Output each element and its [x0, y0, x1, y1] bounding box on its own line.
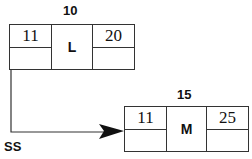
node-l-right-empty — [93, 48, 134, 70]
node-l-left-empty — [10, 48, 51, 70]
node-l-center: L — [51, 25, 93, 69]
node-l-left-value: 11 — [10, 25, 51, 48]
edge-label: SS — [4, 140, 21, 153]
node-l-left-cell: 11 — [10, 25, 51, 69]
node-l-header: 10 — [63, 4, 77, 17]
node-m: 11 M 25 — [124, 106, 249, 152]
node-l: 11 L 20 — [9, 24, 135, 70]
node-m-left-value: 11 — [125, 107, 166, 130]
node-l-right-value: 20 — [93, 25, 134, 48]
node-m-left-empty — [125, 130, 166, 152]
node-m-center: M — [166, 107, 207, 151]
node-m-right-value: 25 — [207, 107, 248, 130]
node-m-right-empty — [207, 130, 248, 152]
node-m-left-cell: 11 — [125, 107, 166, 151]
node-m-right-cell: 25 — [207, 107, 248, 151]
node-l-right-cell: 20 — [93, 25, 134, 69]
node-m-header: 15 — [177, 88, 191, 101]
